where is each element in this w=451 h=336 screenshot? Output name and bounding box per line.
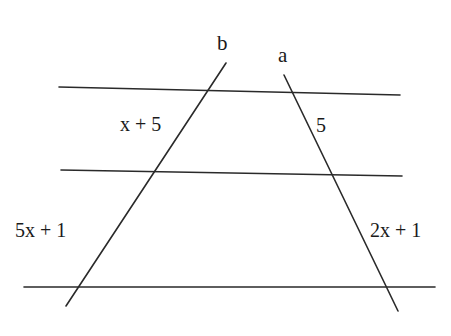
transversal-a-label: a [278, 43, 288, 67]
transversal-b-label: b [217, 31, 228, 55]
segment-label-a-lower: 2x + 1 [370, 219, 421, 241]
parallel-lines-transversals-diagram: b a x + 5 5 5x + 1 2x + 1 [0, 0, 451, 336]
segment-label-b-lower: 5x + 1 [15, 219, 66, 241]
segment-label-a-upper: 5 [316, 114, 326, 136]
segment-label-b-upper: x + 5 [120, 113, 161, 135]
